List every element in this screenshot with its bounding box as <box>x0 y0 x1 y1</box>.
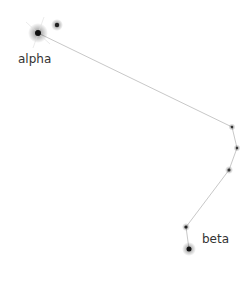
label-beta: beta <box>202 232 229 246</box>
constellation-diagram <box>0 0 251 295</box>
star-s4 <box>234 145 241 152</box>
label-alpha: alpha <box>18 52 51 66</box>
star-s3 <box>229 124 236 131</box>
star-companion <box>51 19 63 31</box>
constellation-lines <box>38 33 237 249</box>
line-s5-s6 <box>186 170 229 227</box>
line-alpha-s3 <box>38 33 232 127</box>
star-s5 <box>225 166 233 174</box>
star-alpha <box>26 17 50 48</box>
star-s6 <box>182 223 190 231</box>
star-beta <box>182 242 196 256</box>
